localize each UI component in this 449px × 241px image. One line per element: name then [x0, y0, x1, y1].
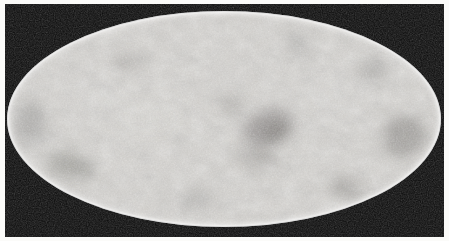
- sky-map-texture: [8, 12, 440, 226]
- mollweide-sky-map: [8, 12, 440, 226]
- sky-plate-background: [5, 4, 444, 237]
- figure-root: [0, 0, 449, 241]
